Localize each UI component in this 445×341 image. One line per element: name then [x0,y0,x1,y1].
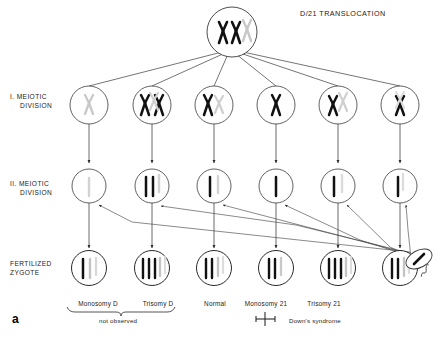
row-label-zygote-line1: FERTILIZED [10,260,52,268]
zygote-cell-2 [135,251,170,286]
meiosis1-cell-3 [195,86,233,124]
meiosis2-cell-1 [72,169,106,203]
row-label-meiosis-ii-line2: DIVISION [20,189,52,197]
outcome-label-trisomy-d: Trisomy D [133,300,183,308]
meiosis2-cell-3 [197,169,231,203]
figure-panel: D/21 TRANSLOCATION I. MEIOTIC DIVISION I… [0,0,445,341]
meiosis1-cell-5 [319,86,357,124]
meiosis1-cell-1 [70,86,108,124]
outcome-label-normal: Normal [194,300,236,308]
meiosis1-cell-4 [257,86,295,124]
outcome-label-monosomy-21: Monosomy 21 [239,300,293,308]
outcome-label-trisomy-21: Trisomy 21 [299,300,349,308]
panel-letter: a [12,312,19,327]
zygote-cell-1 [72,251,107,286]
meiosis1-to-meiosis2-arrows [89,124,400,163]
meiosis2-to-zygote-arrows [89,203,400,248]
row-label-meiosis-i-line2: DIVISION [20,102,52,110]
meiosis1-cell-2 [133,86,171,124]
meiosis-diagram [0,0,445,341]
note-not-observed: not observed [99,317,137,325]
note-downs-syndrome: Down's syndrome [289,317,341,325]
parent-to-meiosis1-connectors [89,52,400,86]
sperm-fertilization-arrows [99,205,411,258]
meiosis1-cell-6 [381,86,419,124]
parent-cell [207,7,257,57]
meiosis2-cell-2 [135,169,169,203]
figure-title: D/21 TRANSLOCATION [300,9,386,18]
row-label-zygote-line2: ZYGOTE [10,269,40,277]
row-label-meiosis-i-line1: I. MEIOTIC [10,93,47,101]
meiosis2-cell-5 [321,169,355,203]
zygote-cell-5 [321,251,356,286]
meiosis2-cell-4 [259,169,293,203]
row-label-meiosis-ii-line1: II. MEIOTIC [10,180,49,188]
outcome-label-monosomy-d: Monosomy D [69,300,127,308]
lethal-cross-icon [256,312,275,326]
not-observed-brace [67,307,175,316]
zygote-cell-4 [259,251,294,286]
zygote-cell-3 [197,251,232,286]
meiosis2-cell-6 [383,169,417,203]
